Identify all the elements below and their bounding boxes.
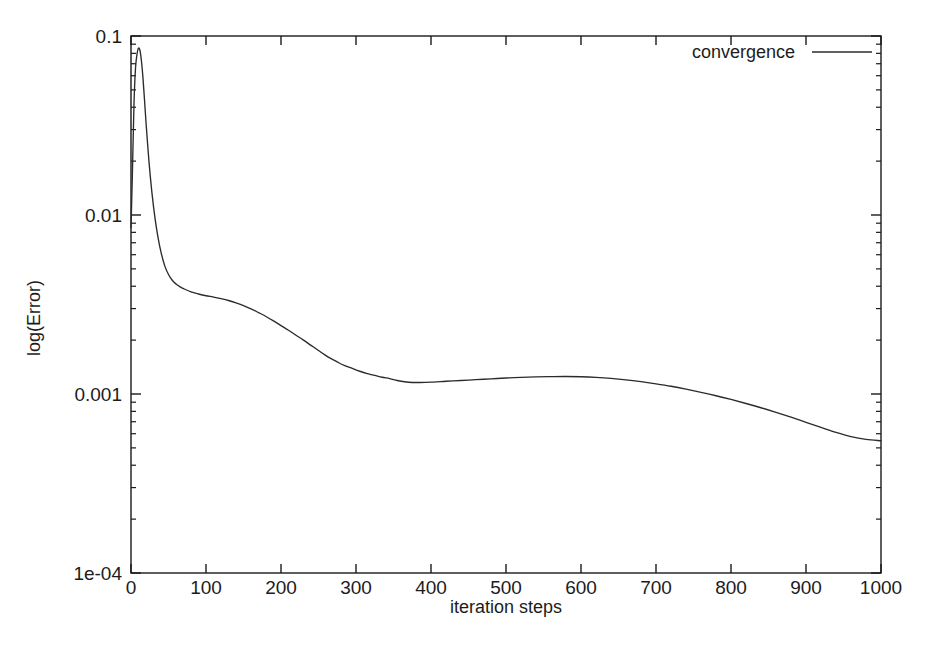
x-tick-label: 200 [265, 577, 297, 598]
data-series-convergence [131, 48, 881, 441]
convergence-line-chart: 01002003004005006007008009001000 0.10.01… [0, 0, 948, 653]
plot-frame [131, 36, 881, 573]
x-axis-title: iteration steps [450, 597, 562, 617]
y-axis-minor-ticks [131, 44, 881, 519]
chart-page: 01002003004005006007008009001000 0.10.01… [0, 0, 948, 653]
legend: convergence [692, 42, 872, 62]
x-axis-tick-labels: 01002003004005006007008009001000 [126, 577, 902, 598]
x-tick-label: 700 [640, 577, 672, 598]
x-tick-label: 100 [190, 577, 222, 598]
x-tick-label: 0 [126, 577, 137, 598]
x-axis-ticks [131, 36, 881, 573]
x-tick-label: 300 [340, 577, 372, 598]
y-axis-ticks [131, 36, 881, 573]
y-tick-label: 1e-04 [73, 563, 122, 584]
legend-label-convergence: convergence [692, 42, 795, 62]
x-tick-label: 400 [415, 577, 447, 598]
y-tick-label: 0.001 [74, 384, 122, 405]
y-tick-label: 0.01 [85, 205, 122, 226]
y-axis-title: log(Error) [24, 280, 44, 356]
x-tick-label: 1000 [860, 577, 902, 598]
x-tick-label: 500 [490, 577, 522, 598]
y-tick-label: 0.1 [96, 26, 122, 47]
x-tick-label: 800 [715, 577, 747, 598]
x-tick-label: 900 [790, 577, 822, 598]
x-tick-label: 600 [565, 577, 597, 598]
y-axis-tick-labels: 0.10.010.0011e-04 [73, 26, 122, 584]
